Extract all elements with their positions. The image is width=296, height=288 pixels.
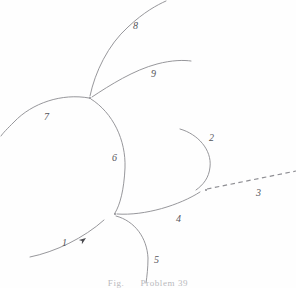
arcs-group <box>1 1 296 283</box>
label-5: 5 <box>154 255 159 265</box>
arc-9 <box>92 60 191 97</box>
label-4: 4 <box>176 214 181 224</box>
label-6: 6 <box>112 153 117 163</box>
label-7: 7 <box>44 112 49 122</box>
arc-3 <box>207 171 296 189</box>
figure-drawing <box>0 0 296 288</box>
label-3: 3 <box>256 188 261 198</box>
vertex-right <box>205 189 207 191</box>
label-2: 2 <box>209 133 214 143</box>
arc-6 <box>91 99 125 213</box>
arc-5 <box>116 216 148 283</box>
arc-2 <box>180 129 210 190</box>
label-8: 8 <box>133 21 138 31</box>
label-1: 1 <box>62 238 67 248</box>
vertices-group <box>89 97 207 215</box>
figure-container: 123456789 Fig.Problem 39 <box>0 0 296 288</box>
figure-caption: Fig.Problem 39 <box>0 278 296 288</box>
arc-8 <box>90 1 166 96</box>
caption-problem-number: 39 <box>178 278 188 288</box>
vertex-top <box>89 97 91 99</box>
label-9: 9 <box>151 69 156 79</box>
caption-prefix: Fig. <box>108 278 125 288</box>
caption-title: Problem <box>140 278 175 288</box>
arc-1 <box>30 220 104 257</box>
vertex-bottom <box>114 213 116 215</box>
arc-4 <box>117 192 200 214</box>
